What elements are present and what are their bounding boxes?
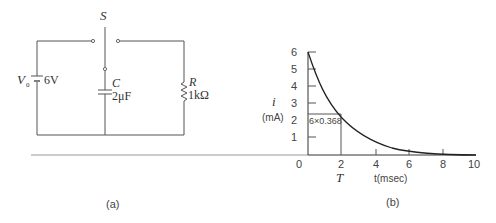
x-tick-labels: 0 2 4 6 8 10 — [296, 158, 480, 170]
svg-text:5: 5 — [291, 63, 297, 75]
svg-text:2: 2 — [338, 158, 344, 170]
capacitor-value: 2μF — [112, 89, 131, 103]
resistor-icon — [181, 82, 187, 101]
source-subscript: 0 — [26, 81, 30, 89]
resistor-label: R — [188, 75, 197, 89]
figure: S V 0 6V C 2μF R 1kΩ (a) 6 — [0, 0, 496, 223]
capacitor-label: C — [112, 76, 121, 90]
rc-circuit: S V 0 6V C 2μF R 1kΩ (a) — [17, 8, 209, 210]
source-value: 6V — [44, 73, 59, 87]
svg-text:1: 1 — [291, 131, 297, 143]
svg-text:8: 8 — [440, 158, 446, 170]
current-decay-graph: 6 5 4 3 2 1 0 2 4 6 8 10 i (mA) T t(msec… — [262, 46, 480, 208]
svg-text:10: 10 — [468, 158, 480, 170]
wire-right-top — [120, 41, 184, 82]
svg-text:6: 6 — [406, 158, 412, 170]
wire-left-top — [37, 41, 93, 76]
current-curve — [308, 52, 476, 155]
y-axis-symbol: i — [272, 94, 276, 109]
caption-b: (b) — [386, 196, 399, 208]
annotation-label: 6×0.368 — [309, 116, 342, 126]
x-axis-label: t(msec) — [374, 173, 407, 184]
caption-a: (a) — [106, 198, 119, 210]
resistor-value: 1kΩ — [188, 88, 209, 102]
switch-label: S — [100, 8, 107, 23]
svg-text:2: 2 — [291, 114, 297, 126]
svg-text:3: 3 — [291, 97, 297, 109]
switch-icon — [91, 27, 119, 71]
capacitor-icon — [98, 90, 112, 94]
svg-text:4: 4 — [373, 158, 379, 170]
y-axis-unit: (mA) — [262, 112, 284, 123]
svg-text:0: 0 — [296, 158, 302, 170]
svg-text:6: 6 — [291, 46, 297, 58]
y-tick-labels: 6 5 4 3 2 1 — [291, 46, 297, 143]
svg-text:4: 4 — [291, 80, 297, 92]
time-constant-label: T — [336, 170, 344, 185]
battery-icon — [31, 76, 43, 81]
